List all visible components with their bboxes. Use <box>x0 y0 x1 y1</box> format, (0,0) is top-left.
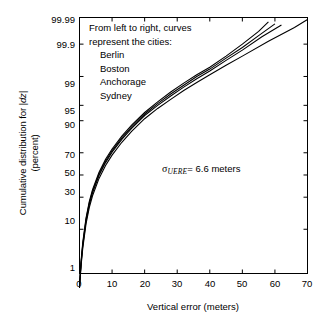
annotation-city-berlin: Berlin <box>89 48 191 62</box>
sigma-uere-annotation: σUERE= 6.6 meters <box>162 163 240 176</box>
chart-figure: Cumulative distribution for |dz| (percen… <box>0 0 322 326</box>
curve-order-annotation: From left to right, curves represent the… <box>89 21 191 103</box>
annotation-line-1: From left to right, curves <box>89 21 191 35</box>
annotation-city-anchorage: Anchorage <box>89 75 191 89</box>
annotation-line-2: represent the cities: <box>89 35 191 49</box>
annotation-city-sydney: Sydney <box>89 89 191 103</box>
annotation-city-boston: Boston <box>89 62 191 76</box>
sigma-subscript: UERE <box>167 167 187 176</box>
sigma-value: = 6.6 meters <box>187 163 240 174</box>
